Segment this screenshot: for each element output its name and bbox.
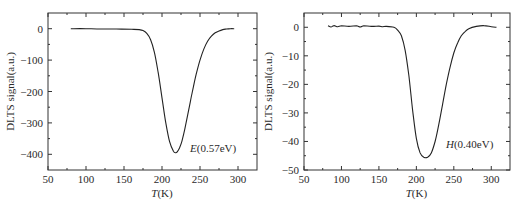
y-tick-label: −50 [282,164,300,176]
trap-annotation: E(0.57eV) [189,142,236,155]
y-tick-label: 0 [294,21,300,33]
y-tick-label: −400 [20,148,43,160]
y-tick-label: −100 [20,54,43,66]
x-tick-label: 50 [43,173,55,185]
y-tick-label: −20 [282,78,300,90]
x-tick-label: 200 [408,173,425,185]
x-tick-label: 250 [192,173,209,185]
y-tick-label: −40 [282,135,300,147]
y-axis-label: DLTS signal(a.u.) [262,52,275,131]
x-tick-label: 150 [371,173,388,185]
y-axis-label: DLTS signal(a.u.) [4,52,17,131]
x-tick-label: 300 [483,173,500,185]
x-tick-label: 50 [299,173,311,185]
x-tick-label: 100 [78,173,95,185]
chart-left-e-trap: 501001502002503000−100−200−300−400T(K)DL… [4,13,257,200]
figure-canvas: 501001502002503000−100−200−300−400T(K)DL… [0,0,520,205]
dlts-signal-curve [71,29,234,153]
x-axis-label: T(K) [151,187,173,200]
chart-right-h-trap: 501001502002503000−10−20−30−40−50T(K)DLT… [262,13,510,200]
y-tick-label: −300 [20,117,43,129]
x-axis-label: T(K) [406,187,428,200]
y-tick-label: −10 [282,50,300,62]
x-tick-label: 150 [116,173,133,185]
x-tick-label: 250 [446,173,463,185]
x-tick-label: 100 [333,173,350,185]
y-tick-label: −30 [282,107,300,119]
y-tick-label: −200 [20,86,43,98]
trap-annotation: H(0.40eV) [445,138,494,151]
x-tick-label: 200 [154,173,171,185]
x-tick-label: 300 [230,173,247,185]
y-tick-label: 0 [38,23,44,35]
